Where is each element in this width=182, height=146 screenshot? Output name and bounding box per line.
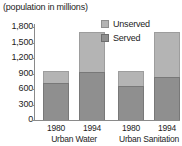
legend-label-served: Served	[113, 33, 140, 43]
bar-segment-served	[154, 77, 180, 120]
y-axis-tick-label: 1,200	[1, 52, 33, 62]
bar-segment-served	[43, 83, 69, 120]
legend-label-unserved: Unserved	[113, 19, 150, 29]
x-axis-tick-label: 1994	[74, 123, 110, 133]
legend-swatch-served-icon	[101, 34, 109, 42]
legend-swatch-unserved-icon	[101, 20, 109, 28]
stacked-bar-chart: (population in millions) 03006009001,200…	[0, 0, 182, 146]
x-axis-tick-label: 1994	[149, 123, 182, 133]
y-axis-tick-label: 1,800	[1, 21, 33, 31]
y-axis-tick-label: 0	[1, 114, 33, 124]
x-axis-tick-label: 1980	[113, 123, 149, 133]
x-axis-tick-label: 1980	[38, 123, 74, 133]
bar-segment-served	[79, 72, 105, 120]
y-axis-tick-label: 300	[1, 99, 33, 109]
chart-legend: Unserved Served	[101, 19, 150, 43]
y-axis-tick-label: 1,500	[1, 37, 33, 47]
y-axis-tick-label: 600	[1, 83, 33, 93]
y-axis-labels: 03006009001,2001,5001,800	[0, 0, 33, 146]
bar-stack	[154, 27, 180, 120]
y-axis-tick-label: 900	[1, 68, 33, 78]
x-axis-line	[34, 120, 180, 121]
x-axis-group-label: Urban Sanitation	[104, 134, 182, 144]
legend-item-served: Served	[101, 33, 150, 43]
bar-segment-served	[118, 86, 144, 120]
legend-item-unserved: Unserved	[101, 19, 150, 29]
bar-stack	[43, 27, 69, 120]
